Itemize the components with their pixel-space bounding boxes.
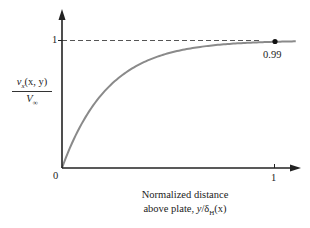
x-tick-label-1: 1 bbox=[271, 172, 276, 184]
xlabel-args: (x) bbox=[214, 203, 226, 214]
y-axis-arrow-icon bbox=[59, 9, 66, 20]
x-axis-label-line2: above plate, y/δH(x) bbox=[120, 202, 250, 220]
point-value-label: 0.99 bbox=[263, 49, 281, 61]
x-axis-label-line1: Normalized distance bbox=[120, 188, 250, 202]
xlabel-prefix: above plate, bbox=[143, 203, 196, 214]
y-tick-label-1: 1 bbox=[52, 34, 57, 46]
y-axis-label: vx(x, y) V∞ bbox=[12, 76, 52, 107]
velocity-profile-curve bbox=[62, 41, 296, 168]
y-axis-label-numerator: vx(x, y) bbox=[12, 76, 52, 92]
ylabel-args: (x, y) bbox=[25, 76, 48, 87]
x-axis-label: Normalized distance above plate, y/δH(x) bbox=[120, 188, 250, 220]
point-marker bbox=[272, 39, 277, 44]
x-axis-arrow-icon bbox=[290, 165, 301, 172]
ylabel-den-sub: ∞ bbox=[33, 99, 38, 107]
origin-label: 0 bbox=[53, 170, 58, 182]
y-axis-label-denominator: V∞ bbox=[12, 92, 52, 107]
